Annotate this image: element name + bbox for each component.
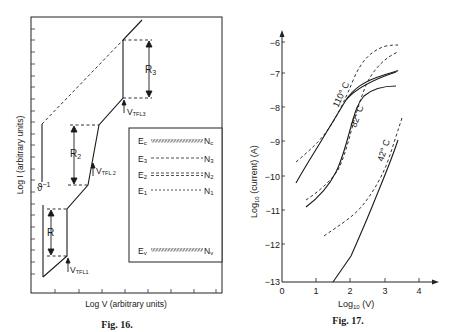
- fig16: R3 R2 R ϑ−1 VTFL1 VTFL 2 VTFL3 Ec Nc E3 …: [15, 17, 222, 330]
- fig17-x-ticks: [316, 278, 419, 282]
- fig17: −6 −7 −8 −9 −10 −11 −12 −13 0 1 2 3 4: [249, 30, 439, 326]
- fig17-label-42c: 42° C: [375, 138, 392, 163]
- fig17-caption: Fig. 17.: [332, 315, 364, 326]
- svg-text:2: 2: [347, 286, 352, 296]
- fig17-x-tick-labels: 0 1 2 3 4: [279, 286, 421, 296]
- svg-text:1: 1: [313, 286, 318, 296]
- svg-text:−8: −8: [270, 103, 280, 113]
- fig17-label-82c: 82° C: [348, 104, 365, 129]
- fig16-caption: Fig. 16.: [101, 319, 133, 330]
- fig16-label-r3: R3: [145, 64, 156, 76]
- fig17-curve-42c-theory: [324, 118, 402, 236]
- svg-text:−7: −7: [270, 69, 280, 79]
- fig16-label-r: R: [47, 227, 54, 238]
- figures-canvas: R3 R2 R ϑ−1 VTFL1 VTFL 2 VTFL3 Ec Nc E3 …: [0, 0, 449, 332]
- fig17-y-tick-labels: −6 −7 −8 −9 −10 −11 −12 −13: [265, 38, 280, 287]
- fig16-label-r2: R2: [70, 148, 81, 160]
- fig17-label-110c: 110° C: [331, 80, 352, 109]
- fig16-iv-curve: [43, 20, 142, 277]
- svg-text:−11: −11: [265, 206, 280, 216]
- fig16-y-ticks: [31, 29, 35, 274]
- svg-text:3: 3: [382, 286, 387, 296]
- fig16-label-theta: ϑ−1: [37, 181, 51, 193]
- svg-text:−12: −12: [265, 240, 280, 250]
- fig16-legend: Ec Nc E3 N3 E2 N2 E1 N1: [129, 128, 222, 262]
- fig17-x-arrow: [432, 280, 439, 285]
- fig16-x-ticks: [55, 289, 216, 293]
- svg-text:−10: −10: [265, 172, 280, 182]
- fig16-label-vtfl3: VTFL3: [127, 107, 146, 117]
- svg-text:0: 0: [279, 286, 284, 296]
- fig16-x-label: Log V (arbitrary units): [85, 299, 167, 309]
- svg-text:−13: −13: [265, 277, 280, 287]
- fig17-x-label: Log10 (V): [338, 299, 374, 310]
- fig16-y-label: Log I (arbitrary units): [15, 116, 25, 195]
- fig16-label-vtfl2: VTFL 2: [96, 166, 116, 176]
- svg-text:−9: −9: [270, 137, 280, 147]
- fig17-y-label: Log10 (current) (A): [249, 145, 260, 218]
- fig17-curve-42c-measured: [333, 140, 398, 282]
- svg-text:4: 4: [416, 286, 421, 296]
- fig16-label-vtfl1: VTFL1: [70, 265, 89, 275]
- fig17-y-arrow: [280, 30, 285, 37]
- svg-text:−6: −6: [270, 38, 280, 48]
